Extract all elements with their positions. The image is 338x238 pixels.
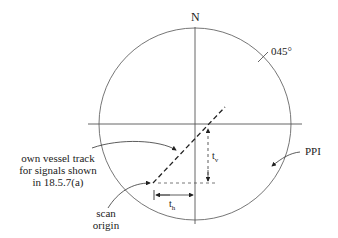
track-leader-arrow [92,141,176,150]
scan-origin-leader-arrow [108,183,150,208]
scan-origin-label: scan origin [86,207,126,231]
bearing-label: 045° [271,45,292,57]
th-label: th [169,198,175,214]
ppi-label: PPI [305,145,321,157]
track-label: own vessel track for signals shown in 18… [8,152,108,188]
north-label: N [191,11,200,23]
tv-label: tv [212,150,218,166]
